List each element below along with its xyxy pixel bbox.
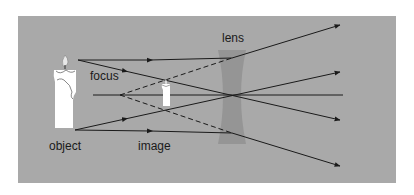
focus-label: focus (90, 69, 119, 83)
diagram-panel (18, 16, 396, 183)
image-label: image (138, 139, 171, 153)
object-label: object (49, 139, 82, 153)
ray-diagram: lens focus object image (0, 0, 414, 195)
lens-label: lens (222, 31, 244, 45)
